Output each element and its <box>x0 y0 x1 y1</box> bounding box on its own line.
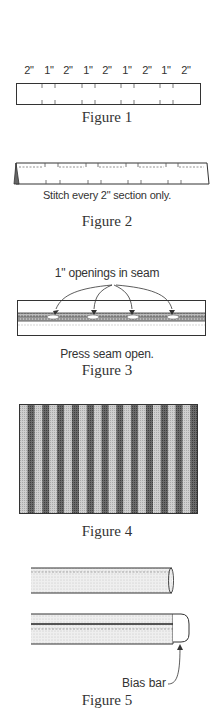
bias-tube-diagram <box>0 0 214 712</box>
bias-bar-callout: Bias bar <box>122 676 166 690</box>
bias-bar-icon <box>173 614 189 642</box>
figure-5-caption: Figure 5 <box>0 692 214 709</box>
